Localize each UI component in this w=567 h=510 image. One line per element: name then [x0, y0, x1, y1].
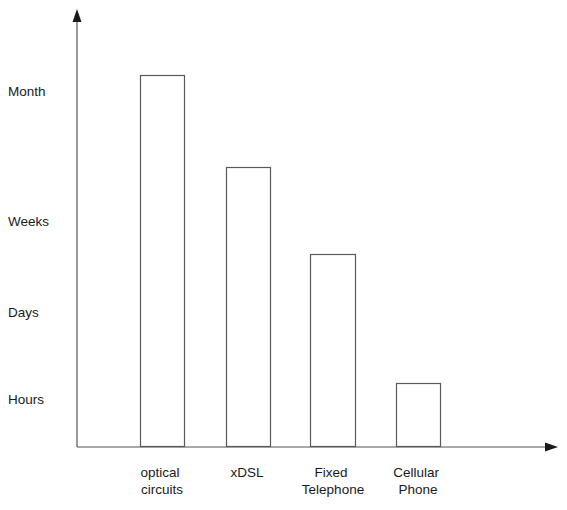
- y-tick-label-hours: Hours: [8, 392, 44, 407]
- x-tick-label-cellular-phone: Cellular Phone: [393, 465, 443, 497]
- x-tick-label-optical-circuits: optical circuits: [141, 465, 184, 497]
- bar-fixed-telephone: [311, 255, 356, 447]
- bar-optical-circuits: [141, 76, 185, 447]
- x-tick-line: circuits: [141, 482, 183, 497]
- y-tick-label-weeks: Weeks: [8, 214, 49, 229]
- bar-cellular-phone: [397, 384, 441, 447]
- x-axis-arrowhead: [545, 443, 558, 452]
- bar-chart-figure: Month Weeks Days Hours optical circuits …: [0, 0, 567, 510]
- x-tick-label-xdsl: xDSL: [230, 465, 264, 480]
- bar-xdsl: [227, 168, 271, 447]
- x-tick-line: Telephone: [302, 482, 364, 497]
- y-axis-arrowhead: [73, 9, 82, 22]
- y-tick-label-days: Days: [8, 305, 39, 320]
- x-tick-label-fixed-telephone: Fixed Telephone: [302, 465, 364, 497]
- x-tick-line: Phone: [398, 482, 437, 497]
- x-tick-line: xDSL: [230, 465, 264, 480]
- y-tick-label-month: Month: [8, 84, 46, 99]
- x-tick-line: Fixed: [315, 465, 348, 480]
- x-tick-line: optical: [141, 465, 180, 480]
- x-tick-line: Cellular: [393, 465, 439, 480]
- chart-canvas: Month Weeks Days Hours optical circuits …: [0, 0, 567, 510]
